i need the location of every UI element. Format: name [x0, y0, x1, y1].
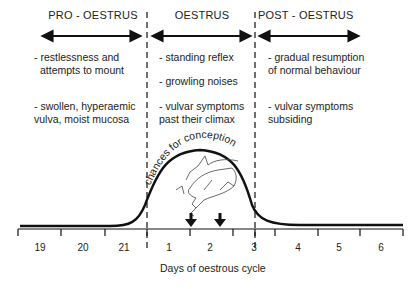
post-sign-2a: - vulvar symptoms	[268, 100, 353, 113]
tick-label-19: 19	[28, 242, 52, 253]
tick-label-4: 4	[286, 242, 310, 253]
phase-title-oestrus: OESTRUS	[153, 9, 251, 21]
x-axis-label: Days of oestrous cycle	[160, 262, 266, 274]
oestrus-sign-2: - growling noises	[159, 75, 238, 88]
tick-label-5: 5	[327, 242, 351, 253]
conception-curve	[20, 150, 403, 226]
post-sign-1b: of normal behaviour	[268, 64, 361, 77]
pro-sign-2a: - swollen, hyperaemic	[34, 100, 136, 113]
phase-title-pro-oestrus: PRO - OESTRUS	[44, 9, 142, 21]
post-sign-2b: subsiding	[268, 113, 312, 126]
tick-label-2: 2	[198, 242, 222, 253]
post-sign-1a: - gradual resumption	[268, 51, 364, 64]
tick-label-20: 20	[71, 242, 95, 253]
phase-title-post-oestrus: POST - OESTRUS	[258, 9, 338, 21]
x-axis	[18, 229, 403, 236]
tick-label-1: 1	[157, 242, 181, 253]
tick-label-3: 3	[242, 242, 266, 253]
pro-sign-2b: vulva, moist mucosa	[34, 113, 129, 126]
oestrus-sign-3b: past their climax	[159, 113, 235, 126]
oestrus-sign-3a: - vulvar symptoms	[159, 100, 244, 113]
tick-label-21: 21	[112, 242, 136, 253]
pro-sign-1a: - restlessness and	[34, 51, 119, 64]
tick-label-6: 6	[369, 242, 393, 253]
pro-sign-1b: attempts to mount	[40, 64, 124, 77]
insemination-arrows	[185, 213, 226, 227]
mating-pigs-illustration	[176, 156, 238, 216]
oestrus-sign-1: - standing reflex	[159, 51, 234, 64]
